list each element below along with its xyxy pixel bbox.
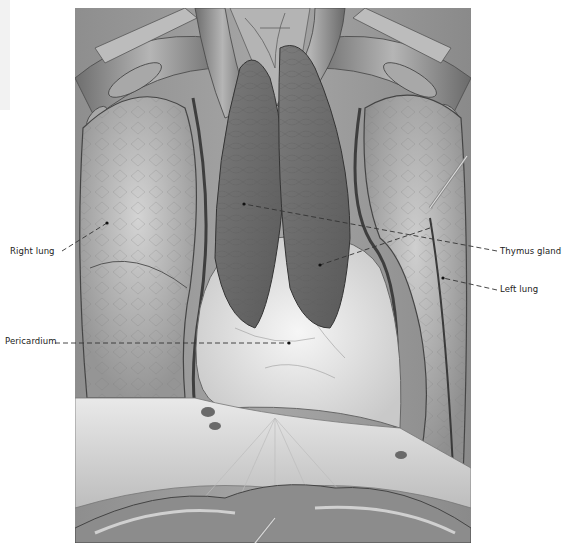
page-edge-strip — [0, 0, 10, 110]
anatomy-drawing — [75, 8, 471, 543]
label-thymus-gland: Thymus gland — [500, 246, 561, 256]
label-right-lung: Right lung — [10, 246, 55, 256]
thorax-illustration — [75, 8, 471, 543]
label-pericardium: Pericardium — [5, 336, 57, 346]
label-left-lung: Left lung — [500, 284, 538, 294]
